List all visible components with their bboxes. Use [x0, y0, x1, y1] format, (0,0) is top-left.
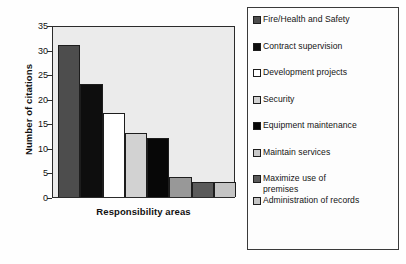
legend-color-swatch	[253, 122, 261, 130]
y-tick-label: 15	[26, 119, 48, 129]
legend-item[interactable]: Administration of records	[253, 195, 394, 206]
x-axis-title: Responsibility areas	[52, 206, 235, 217]
legend-item[interactable]: Fire/Health and Safety	[253, 14, 394, 25]
legend-color-swatch	[253, 149, 261, 157]
legend-item-label: Security	[263, 94, 294, 105]
legend-item[interactable]: Maximize use of premises	[253, 173, 394, 194]
legend-color-swatch	[253, 43, 261, 51]
bar	[80, 84, 102, 197]
bar-chart-figure: Number of citations 05101520253035 Respo…	[0, 0, 406, 264]
y-tick-label: 25	[26, 70, 48, 80]
y-tick-label: 20	[26, 95, 48, 105]
legend-item-label: Administration of records	[263, 195, 359, 206]
legend-item-label: Contract supervision	[263, 41, 342, 52]
legend-color-swatch	[253, 96, 261, 104]
legend-item-label: Development projects	[263, 67, 347, 78]
bar	[169, 177, 191, 197]
y-tick-label: 30	[26, 46, 48, 56]
legend-item[interactable]: Maintain services	[253, 147, 394, 158]
bar	[125, 133, 147, 197]
legend-item[interactable]: Security	[253, 94, 394, 105]
y-tick-mark	[47, 198, 52, 199]
legend-item-label: Equipment maintenance	[263, 120, 357, 131]
legend-item-label: Maintain services	[263, 147, 330, 158]
legend-item[interactable]: Equipment maintenance	[253, 120, 394, 131]
bar	[214, 182, 236, 197]
legend-color-swatch	[253, 175, 261, 183]
bar	[58, 45, 80, 197]
legend-item-label: Fire/Health and Safety	[263, 14, 350, 25]
legend-item[interactable]: Development projects	[253, 67, 394, 78]
y-tick-label: 0	[26, 193, 48, 203]
legend-color-swatch	[253, 16, 261, 24]
plot-area	[52, 26, 235, 198]
y-tick-label: 35	[26, 21, 48, 31]
legend-item[interactable]: Contract supervision	[253, 41, 394, 52]
bar	[147, 138, 169, 197]
bar-series	[53, 27, 234, 197]
legend-item-label: Maximize use of premises	[263, 173, 326, 194]
chart-legend: Fire/Health and SafetyContract supervisi…	[247, 7, 399, 250]
legend-color-swatch	[253, 197, 261, 205]
legend-color-swatch	[253, 69, 261, 77]
bar	[192, 182, 214, 197]
y-tick-label: 10	[26, 144, 48, 154]
y-tick-label: 5	[26, 168, 48, 178]
bar	[103, 113, 125, 197]
